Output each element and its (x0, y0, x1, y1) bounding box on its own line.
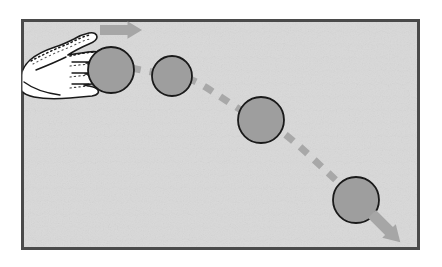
ball-circle (238, 97, 284, 143)
ball-position-2 (152, 56, 192, 96)
ball-position-1 (88, 47, 134, 93)
figure-root: Hand pushing a ball along a curved traje… (0, 0, 442, 267)
ball-position-3 (238, 97, 284, 143)
ball-trajectory-illustration: Hand pushing a ball along a curved traje… (0, 0, 442, 267)
ball-circle (88, 47, 134, 93)
ball-circle (152, 56, 192, 96)
